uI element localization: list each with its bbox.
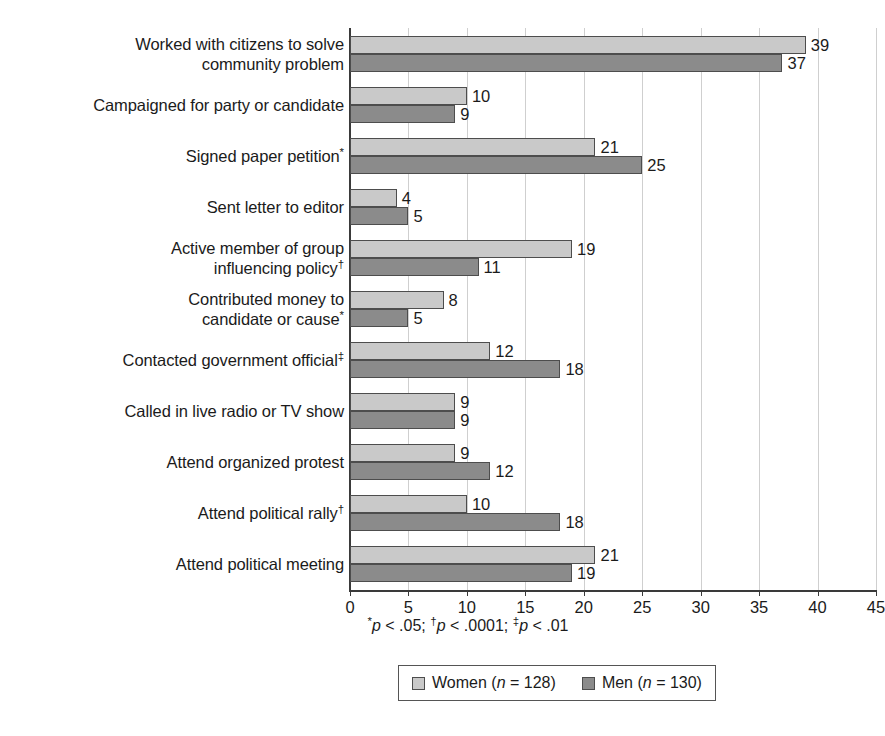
footnote-text-1: < .05;	[381, 617, 430, 634]
bar-men[interactable]	[350, 564, 572, 582]
bar-men[interactable]	[350, 54, 782, 72]
bar-wrapper: 19	[350, 564, 876, 582]
axis-tick-label: 35	[750, 598, 768, 617]
bar-men[interactable]	[350, 105, 455, 123]
bar-women[interactable]	[350, 342, 490, 360]
bar-women[interactable]	[350, 189, 397, 207]
bar-wrapper: 12	[350, 342, 876, 360]
bar-wrapper: 11	[350, 258, 876, 276]
category-label: Worked with citizens to solve community …	[135, 34, 344, 74]
category-significance-mark: *	[340, 145, 344, 157]
bar-women[interactable]	[350, 291, 444, 309]
bar-value-label: 9	[455, 444, 469, 463]
bar-wrapper: 21	[350, 138, 876, 156]
footnote-text-3: < .01	[528, 617, 568, 634]
category-label: Contributed money to candidate or cause*	[188, 289, 344, 329]
bar-wrapper: 5	[350, 309, 876, 327]
bars: 109	[350, 87, 876, 123]
bar-men[interactable]	[350, 462, 490, 480]
bars: 912	[350, 444, 876, 480]
bar-women[interactable]	[350, 393, 455, 411]
bars: 2119	[350, 546, 876, 582]
bar-group: Signed paper petition*2125	[0, 130, 876, 181]
category-label: Attend organized protest	[167, 452, 344, 472]
bars: 1218	[350, 342, 876, 378]
bar-value-label: 8	[444, 290, 458, 309]
category-label: Signed paper petition*	[186, 146, 344, 166]
category-label: Attend political meeting	[176, 554, 344, 574]
category-significance-mark: †	[338, 503, 344, 515]
bar-wrapper: 10	[350, 87, 876, 105]
bar-wrapper: 9	[350, 393, 876, 411]
bar-wrapper: 18	[350, 360, 876, 378]
bars: 1018	[350, 495, 876, 531]
bars: 2125	[350, 138, 876, 174]
bar-men[interactable]	[350, 258, 479, 276]
bars: 99	[350, 393, 876, 429]
axis-tick-label: 25	[633, 598, 651, 617]
axis-tick	[467, 590, 468, 596]
bar-women[interactable]	[350, 444, 455, 462]
bar-value-label: 37	[782, 53, 805, 72]
bar-value-label: 19	[572, 239, 595, 258]
category-significance-mark: †	[338, 257, 344, 269]
bars: 3937	[350, 36, 876, 72]
bar-women[interactable]	[350, 546, 595, 564]
bar-value-label: 21	[595, 137, 618, 156]
bar-group: Contacted government official‡1218	[0, 334, 876, 385]
chart-legend: Women (n = 128)Men (n = 130)	[398, 665, 716, 701]
axis-tick	[584, 590, 585, 596]
bar-wrapper: 25	[350, 156, 876, 174]
footnote-p-1: p	[372, 617, 381, 634]
footnote-p-2: p	[437, 617, 446, 634]
axis-tick	[759, 590, 760, 596]
bar-value-label: 12	[490, 342, 513, 361]
bar-value-label: 5	[408, 308, 422, 327]
bar-value-label: 10	[467, 495, 490, 514]
plot-area: Worked with citizens to solve community …	[0, 28, 876, 590]
bar-men[interactable]	[350, 360, 560, 378]
gridline	[876, 28, 877, 590]
bar-wrapper: 9	[350, 411, 876, 429]
bar-women[interactable]	[350, 240, 572, 258]
bar-men[interactable]	[350, 513, 560, 531]
bar-women[interactable]	[350, 36, 806, 54]
bar-men[interactable]	[350, 411, 455, 429]
bar-wrapper: 37	[350, 54, 876, 72]
bar-men[interactable]	[350, 156, 642, 174]
bar-value-label: 12	[490, 462, 513, 481]
legend-item-women[interactable]: Women (n = 128)	[412, 674, 556, 692]
legend-swatch-men	[582, 677, 595, 690]
bar-wrapper: 9	[350, 105, 876, 123]
legend-n-symbol: n	[643, 674, 652, 691]
axis-tick-label: 20	[575, 598, 593, 617]
legend-item-men[interactable]: Men (n = 130)	[582, 674, 702, 692]
bar-wrapper: 8	[350, 291, 876, 309]
bar-value-label: 18	[560, 513, 583, 532]
bar-men[interactable]	[350, 309, 408, 327]
bar-wrapper: 21	[350, 546, 876, 564]
axis-tick	[350, 590, 351, 596]
bar-group-container: Worked with citizens to solve community …	[0, 28, 876, 590]
bar-group: Active member of group influencing polic…	[0, 232, 876, 283]
category-label: Campaigned for party or candidate	[93, 95, 344, 115]
bar-value-label: 11	[479, 257, 501, 276]
bar-wrapper: 10	[350, 495, 876, 513]
legend-label: Men (n = 130)	[602, 674, 702, 692]
legend-n-symbol: n	[497, 674, 506, 691]
bar-men[interactable]	[350, 207, 408, 225]
bar-group: Called in live radio or TV show99	[0, 386, 876, 437]
bar-women[interactable]	[350, 138, 595, 156]
category-label: Attend political rally†	[198, 503, 344, 523]
bar-value-label: 4	[397, 188, 411, 207]
bar-value-label: 9	[455, 393, 469, 412]
bars: 1911	[350, 240, 876, 276]
axis-tick-label: 10	[458, 598, 476, 617]
category-label: Called in live radio or TV show	[125, 401, 344, 421]
bar-value-label: 39	[806, 35, 829, 54]
bar-value-label: 9	[455, 104, 469, 123]
bar-women[interactable]	[350, 87, 467, 105]
bar-women[interactable]	[350, 495, 467, 513]
axis-tick-label: 5	[404, 598, 413, 617]
